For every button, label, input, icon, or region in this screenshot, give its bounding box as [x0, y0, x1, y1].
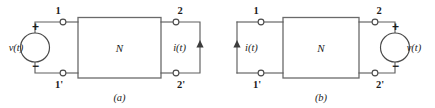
terminal-label-a-1p: 1'	[55, 79, 63, 90]
terminal-node-a-2p	[173, 70, 179, 76]
network-label-b: N	[316, 42, 325, 54]
source-plus-b: +	[392, 20, 399, 34]
network-label-a: N	[115, 42, 124, 54]
current-arrow-a	[196, 40, 203, 48]
panel-a: 1 1' 2 2' N v(t) + − i(t) (a)	[9, 5, 204, 104]
terminal-node-a-2	[173, 19, 179, 25]
terminal-node-b-2p	[372, 70, 378, 76]
source-minus-a: −	[32, 59, 39, 73]
terminal-label-b-1: 1	[253, 5, 258, 16]
terminal-node-a-1	[60, 19, 66, 25]
terminal-node-b-2	[372, 19, 378, 25]
terminal-node-b-1p	[258, 70, 264, 76]
terminal-label-b-1p: 1'	[253, 79, 261, 90]
source-label-a: v(t)	[9, 42, 24, 54]
circuit-diagram-canvas: 1 1' 2 2' N v(t) + − i(t) (a)	[0, 0, 435, 108]
panel-caption-a: (a)	[113, 92, 126, 104]
panel-b: 1 1' 2 2' N i(t) v(t) + − (b)	[233, 5, 421, 104]
terminal-label-a-2: 2	[177, 5, 182, 16]
voltage-source-b	[381, 33, 410, 62]
current-label-b: i(t)	[245, 42, 258, 54]
current-arrow-b	[233, 40, 240, 48]
panel-caption-b: (b)	[315, 92, 328, 104]
source-label-b: v(t)	[407, 42, 422, 54]
terminal-label-b-2: 2	[376, 5, 381, 16]
terminal-node-b-1	[258, 19, 264, 25]
current-label-a: i(t)	[173, 42, 186, 54]
two-port-network-figure: 1 1' 2 2' N v(t) + − i(t) (a)	[0, 0, 435, 108]
terminal-label-b-2p: 2'	[376, 79, 384, 90]
voltage-source-a	[21, 33, 50, 62]
terminal-node-a-1p	[60, 70, 66, 76]
source-plus-a: +	[32, 20, 39, 34]
source-minus-b: −	[392, 59, 399, 73]
terminal-label-a-1: 1	[55, 5, 60, 16]
terminal-label-a-2p: 2'	[177, 79, 185, 90]
